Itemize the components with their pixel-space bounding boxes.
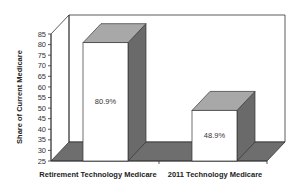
- x-axis-labels: Retirement Technology Medicare2011 Techn…: [39, 170, 262, 179]
- y-tick-label: 85: [38, 30, 46, 39]
- y-tick-label: 40: [38, 125, 46, 134]
- y-tick-label: 80: [38, 40, 46, 49]
- side-wall-edge: [51, 15, 69, 161]
- bar: 48.9%: [192, 91, 255, 161]
- y-tick-label: 50: [38, 104, 46, 113]
- y-tick-label: 55: [38, 93, 46, 102]
- bar-chart-3d: 25303540455055606570758085 80.9%48.9% Re…: [0, 0, 306, 196]
- y-tick-label: 75: [38, 51, 46, 60]
- y-tick-label: 70: [38, 61, 46, 70]
- bar: 80.9%: [83, 24, 146, 161]
- y-tick-label: 65: [38, 72, 46, 81]
- bar-value-label: 80.9%: [95, 97, 117, 106]
- y-tick-label: 30: [38, 146, 46, 155]
- y-tick-label: 60: [38, 83, 46, 92]
- y-axis-title: Share of Current Medicare: [15, 50, 24, 144]
- bar-value-label: 48.9%: [204, 131, 226, 140]
- bar-side: [128, 24, 146, 161]
- x-category-label: Retirement Technology Medicare: [39, 170, 156, 179]
- y-tick-label: 45: [38, 114, 46, 123]
- y-tick-label: 35: [38, 135, 46, 144]
- x-category-label: 2011 Technology Medicare: [168, 170, 262, 179]
- y-tick-label: 25: [38, 157, 46, 166]
